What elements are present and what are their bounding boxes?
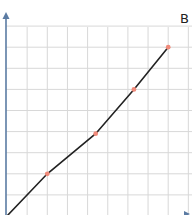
data-point bbox=[93, 131, 98, 136]
grid-lines bbox=[6, 26, 192, 215]
data-point bbox=[132, 87, 137, 92]
axes bbox=[3, 12, 191, 215]
data-point bbox=[45, 171, 50, 176]
line-chart bbox=[0, 0, 192, 215]
data-point bbox=[166, 45, 171, 50]
panel-label: B bbox=[180, 11, 189, 26]
